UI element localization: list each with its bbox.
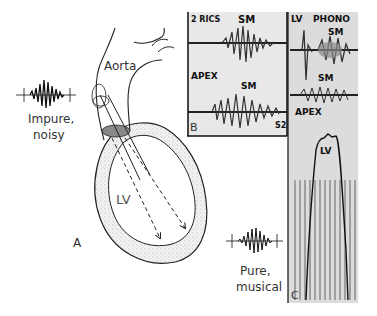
pure-caption-line2: musical xyxy=(236,281,282,293)
panel-b-top-sm-label: SM xyxy=(238,14,255,25)
panel-c-sm-label-1: SM xyxy=(328,27,343,37)
panel-b-letter: B xyxy=(190,122,198,134)
aorta-label: Aorta xyxy=(104,60,136,72)
panel-b-bottom-trace-label: APEX xyxy=(191,71,218,81)
figure-drawing xyxy=(0,0,377,316)
panel-b-top-trace-label: 2 RICS xyxy=(191,15,220,24)
impure-caption-line2: noisy xyxy=(33,129,65,141)
impure-noisy-waveform-icon xyxy=(16,80,76,108)
panel-b-bottom-sm-label: SM xyxy=(241,81,256,91)
panel-c-lv-label: LV xyxy=(291,14,302,24)
pure-musical-waveform-icon xyxy=(226,228,283,253)
lv-wall xyxy=(95,123,207,263)
aorta xyxy=(92,28,174,140)
lv-label: LV xyxy=(116,194,131,206)
panel-c-lv-pressure-label: LV xyxy=(320,146,331,156)
panel-a-letter: A xyxy=(73,237,81,249)
panel-c-phono-label: PHONO xyxy=(313,14,350,24)
panel-b-s2-label: S2 xyxy=(275,121,286,130)
panel-c-intracardiac-phono xyxy=(288,12,358,303)
impure-caption-line1: Impure, xyxy=(28,113,74,125)
panel-c-sm-label-2: SM xyxy=(318,73,333,83)
panel-c-letter: C xyxy=(291,290,299,302)
panel-c-apex-label: APEX xyxy=(295,107,322,117)
pure-caption-line1: Pure, xyxy=(240,265,271,277)
